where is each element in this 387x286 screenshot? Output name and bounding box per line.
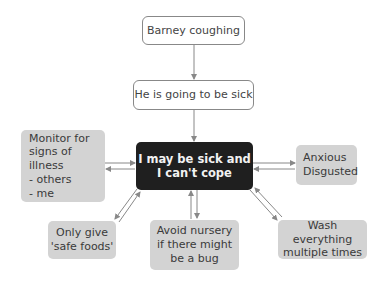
node-monitor: Monitor for signs of illness - others - … <box>21 130 105 202</box>
node-thought-label: He is going to be sick <box>134 88 252 102</box>
node-wash-everything-label: Wash everything multiple times <box>278 219 367 260</box>
node-monitor-label: Monitor for signs of illness - others - … <box>29 132 105 201</box>
node-wash-everything: Wash everything multiple times <box>278 220 367 259</box>
node-emotions: Anxious Disgusted <box>296 145 357 185</box>
node-avoid-nursery: Avoid nursery if there might be a bug <box>150 220 239 270</box>
node-safe-foods: Only give 'safe foods' <box>48 221 116 259</box>
node-emotions-label: Anxious Disgusted <box>303 151 358 179</box>
node-thought: He is going to be sick <box>133 80 254 110</box>
node-trigger-label: Barney coughing <box>147 24 240 38</box>
node-core-belief: I may be sick and I can't cope <box>136 142 253 190</box>
node-trigger: Barney coughing <box>142 16 245 45</box>
node-avoid-nursery-label: Avoid nursery if there might be a bug <box>157 224 233 265</box>
node-core-belief-label: I may be sick and I can't cope <box>138 152 251 181</box>
node-safe-foods-label: Only give 'safe foods' <box>51 226 114 254</box>
